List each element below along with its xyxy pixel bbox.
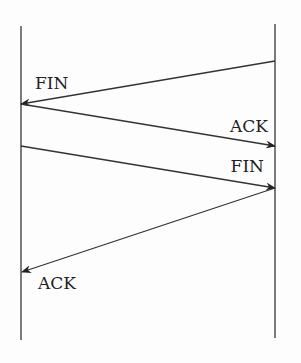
message-label-fin-2: FIN [231,156,265,176]
message-label-ack-1: ACK [229,116,268,136]
message-arrow-ack-2 [22,188,275,272]
message-label-fin-1: FIN [35,73,69,93]
sequence-diagram: FIN ACK FIN ACK [0,0,301,363]
message-label-ack-2: ACK [37,273,76,293]
